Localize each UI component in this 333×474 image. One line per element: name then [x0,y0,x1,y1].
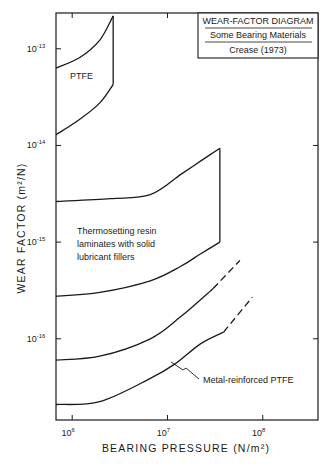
x-tick-label: 106 [62,427,76,438]
title-box-line3: Crease (1973) [229,45,287,55]
y-tick-label: 10-13 [27,43,46,54]
thermosetting-lower-curve [56,242,220,296]
annotation-pointer [171,362,199,379]
label-thermosetting-line2: laminates with solid [77,239,155,249]
wear-factor-chart: 10610710810-1310-1410-1510-16 WEAR-FACTO… [0,0,333,474]
pointer-arm-zigzag [183,368,186,370]
title-box-line2: Some Bearing Materials [210,30,307,40]
x-axis-title: BEARING PRESSURE (N/m²) [102,442,270,454]
plot-frame [56,13,318,420]
metal-ptfe-upper-curve [56,289,213,361]
ptfe-lower-curve [56,85,113,135]
label-thermosetting-line1: Thermosetting resin [77,226,157,236]
label-thermosetting-line3: lubricant fillers [77,252,135,262]
legend-title-box: WEAR-FACTOR DIAGRAM Some Bearing Materia… [198,13,318,58]
thermosetting-upper-curve [56,148,220,201]
y-tick-label: 10-15 [27,236,46,247]
x-tick-label: 107 [157,427,171,438]
label-ptfe: PTFE [70,71,93,81]
y-axis-title: WEAR FACTOR (m²/N) [15,162,27,293]
y-tick-label: 10-14 [27,139,46,150]
metal-ptfe-upper-dashed-extension [213,261,240,289]
title-box-line1: WEAR-FACTOR DIAGRAM [203,16,314,26]
pointer-arm-lower [186,368,199,379]
y-tick-label: 10-16 [27,333,46,344]
label-metal-reinforced-ptfe: Metal-reinforced PTFE [203,375,294,385]
axis-ticks [56,13,318,420]
x-tick-label: 108 [252,427,266,438]
metal-ptfe-lower-dashed-extension [224,297,253,332]
ptfe-upper-curve [56,16,113,68]
